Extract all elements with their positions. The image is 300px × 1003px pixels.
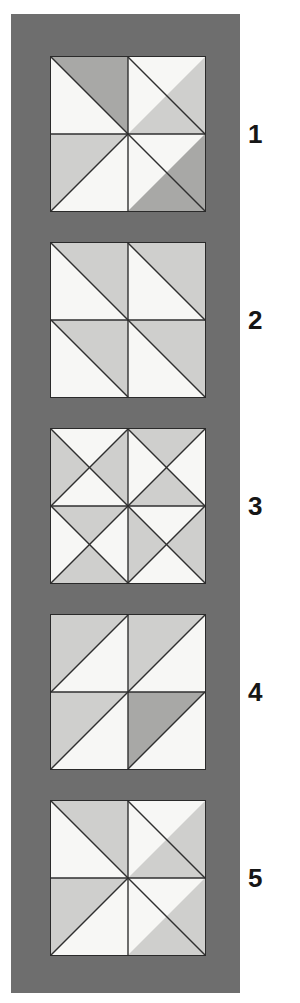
tile-label-2: 2 [248,307,288,333]
pattern-1-graphic [51,57,205,211]
pattern-3-graphic [51,429,205,583]
pattern-4-graphic [51,615,205,769]
pattern-tile-2[interactable] [50,242,206,398]
pattern-2-graphic [51,243,205,397]
pattern-tile-3[interactable] [50,428,206,584]
tile-label-1: 1 [248,121,288,147]
pattern-tile-1[interactable] [50,56,206,212]
tile-label-3: 3 [248,493,288,519]
pattern-5-graphic [51,801,205,955]
tile-label-5: 5 [248,865,288,891]
pattern-tile-5[interactable] [50,800,206,956]
figure-canvas: 1 2 [0,0,300,1003]
pattern-tile-4[interactable] [50,614,206,770]
tile-label-4: 4 [248,679,288,705]
